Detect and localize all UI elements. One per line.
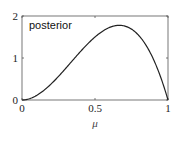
posterior-curve	[22, 25, 168, 100]
y-tick-label: 1	[13, 52, 19, 64]
posterior-annotation: posterior	[29, 19, 72, 31]
x-tick-label: 0.5	[88, 102, 102, 114]
y-tick-label: 2	[13, 10, 19, 22]
x-axis-label: μ	[91, 117, 98, 129]
plot-area: 00.51012posteriorμ	[13, 10, 171, 129]
y-tick-label: 0	[13, 94, 19, 106]
x-tick-label: 1	[165, 102, 171, 114]
posterior-chart: 00.51012posteriorμ	[0, 0, 177, 141]
x-tick-label: 0	[19, 102, 25, 114]
